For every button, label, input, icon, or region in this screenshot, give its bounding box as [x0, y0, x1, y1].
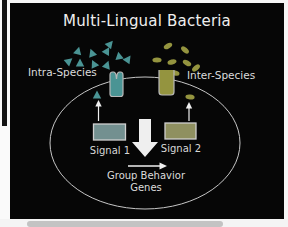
- signal2-label: Signal 2: [146, 143, 216, 154]
- genes-line1: Group Behavior: [107, 170, 185, 181]
- receptor-left: [110, 72, 123, 97]
- slide-title: Multi-Lingual Bacteria: [10, 12, 284, 30]
- intra-signal-molecule-triangle: [73, 46, 83, 56]
- intra-signal-molecule-triangle: [114, 51, 124, 60]
- intra-signal-molecule-triangle: [64, 55, 75, 66]
- photo-edge-streak: [27, 221, 223, 227]
- inter-signal-molecule-ellipse: [180, 45, 190, 55]
- signal1-box-shape: [94, 124, 126, 140]
- inter-signal-molecule-ellipse: [182, 59, 192, 68]
- photo-frame: Multi-Lingual Bacteria Intra-Species Int…: [0, 0, 288, 227]
- signal1-up-arrow: [95, 100, 101, 121]
- signal1-label: Signal 1: [75, 145, 145, 156]
- intra-signal-molecule-triangle: [102, 59, 113, 69]
- inter-signal-molecule-ellipse: [152, 58, 161, 63]
- intra-signal-molecule-triangle: [87, 47, 98, 57]
- inter-species-label: Inter-Species: [187, 69, 255, 81]
- signal2-box-shape: [165, 123, 196, 139]
- intra-signal-molecule-triangle: [123, 53, 134, 64]
- signal2-up-arrow: [186, 102, 192, 121]
- receptor-right: [159, 70, 174, 95]
- inter-signal-molecule-ellipse: [167, 58, 177, 65]
- group-behavior-genes-label: Group Behavior Genes: [86, 170, 206, 194]
- intra-signal-molecule-triangle: [93, 91, 101, 99]
- gene-right-arrow: [128, 162, 167, 169]
- inter-signal-molecule-ellipse: [163, 42, 173, 51]
- inter-signal-molecule-ellipse: [185, 94, 195, 100]
- genes-line2: Genes: [130, 182, 162, 193]
- intra-signal-molecule-triangle: [105, 38, 116, 49]
- intra-species-label: Intra-Species: [28, 66, 97, 78]
